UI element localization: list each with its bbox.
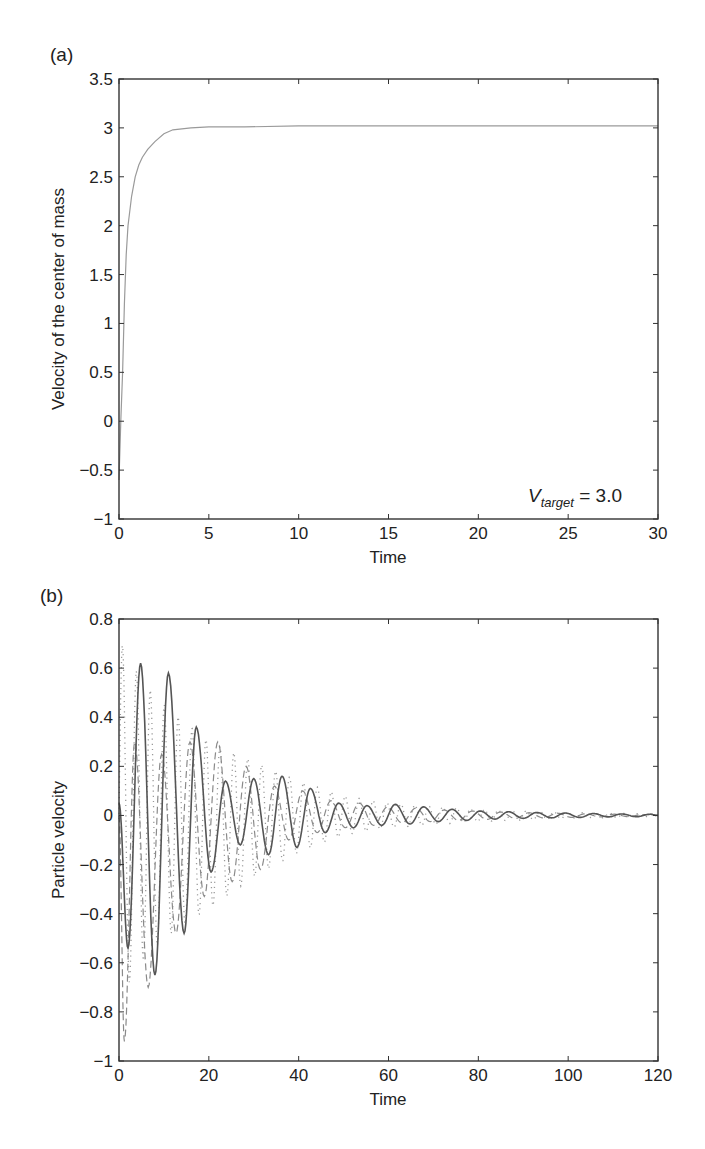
b-xtick-label: 0 bbox=[114, 1066, 123, 1085]
b-xtick-label: 120 bbox=[644, 1066, 672, 1085]
b-xtick-label: 40 bbox=[289, 1066, 308, 1085]
b-xtick-label: 60 bbox=[379, 1066, 398, 1085]
b-ytick-label: 0.2 bbox=[89, 757, 113, 776]
b-xtick-label: 100 bbox=[554, 1066, 582, 1085]
b-ytick-label: −0.8 bbox=[79, 1003, 113, 1022]
chart-b-ticks: 020406080100120−1−0.8−0.6−0.4−0.200.20.4… bbox=[79, 610, 672, 1085]
b-xtick-label: 20 bbox=[199, 1066, 218, 1085]
chart-b-series-solid bbox=[119, 663, 658, 975]
b-ytick-label: −0.4 bbox=[79, 905, 113, 924]
b-ytick-label: 0 bbox=[104, 806, 113, 825]
chart-b-particle-velocity: 020406080100120−1−0.8−0.6−0.4−0.200.20.4… bbox=[0, 0, 705, 1149]
b-ytick-label: −0.6 bbox=[79, 954, 113, 973]
chart-b-plot-lines bbox=[119, 646, 658, 1042]
chart-b-xlabel: Time bbox=[369, 1090, 406, 1109]
b-ytick-label: −0.2 bbox=[79, 856, 113, 875]
chart-b-ylabel: Particle velocity bbox=[49, 780, 68, 899]
b-ytick-label: 0.8 bbox=[89, 610, 113, 629]
b-xtick-label: 80 bbox=[469, 1066, 488, 1085]
b-ytick-label: 0.6 bbox=[89, 659, 113, 678]
chart-b-axes bbox=[119, 619, 658, 1061]
chart-b-series-dashed bbox=[119, 742, 658, 1042]
b-ytick-label: −1 bbox=[94, 1052, 113, 1071]
b-ytick-label: 0.4 bbox=[89, 708, 113, 727]
b-axes-frame bbox=[119, 619, 658, 1061]
